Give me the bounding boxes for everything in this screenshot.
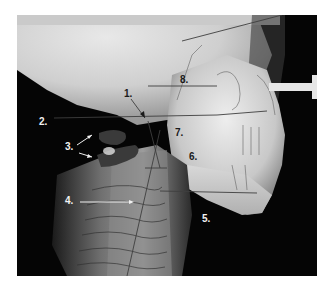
annotation-label-3: 3. xyxy=(65,142,73,152)
annotation-label-8: 8. xyxy=(180,75,188,85)
annotation-label-2: 2. xyxy=(39,117,47,127)
annotation-label-1: 1. xyxy=(124,89,132,99)
xray-image xyxy=(17,15,317,276)
annotation-label-5: 5. xyxy=(202,214,210,224)
annotation-label-7: 7. xyxy=(175,128,183,138)
annotation-label-4: 4. xyxy=(65,196,73,206)
annotation-label-6: 6. xyxy=(189,152,197,162)
cephalometric-xray: 1. 2. 3. 4. 5. 6. 7. 8. xyxy=(17,15,317,276)
